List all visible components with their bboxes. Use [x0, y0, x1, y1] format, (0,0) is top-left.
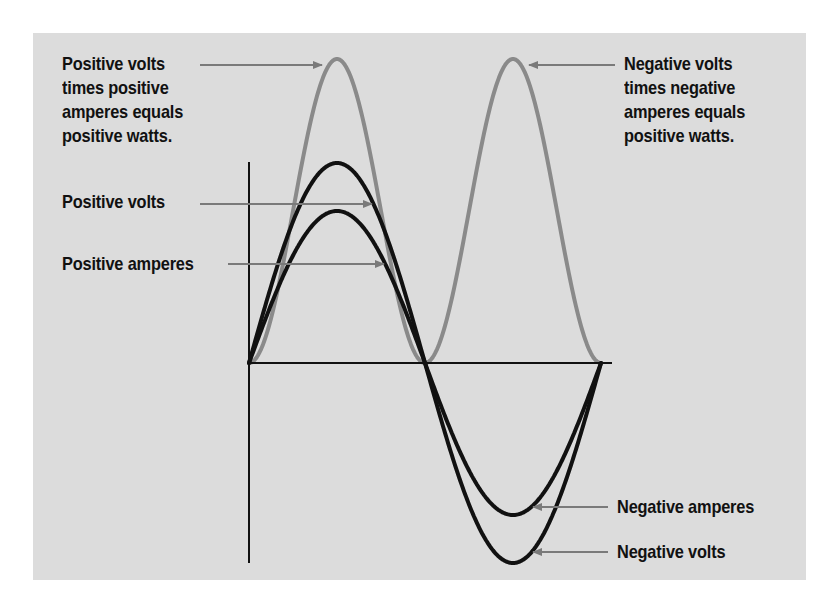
label-positive-volts: Positive volts — [62, 190, 165, 214]
label-line: times positive — [62, 76, 183, 100]
label-line: Negative amperes — [617, 495, 754, 519]
label-line: Negative volts — [617, 540, 725, 564]
label-negative-volts: Negative volts — [617, 540, 725, 564]
waveform-curves — [249, 59, 601, 563]
label-positive-watts: Positive volts times positive amperes eq… — [62, 52, 183, 148]
label-line: Negative volts — [624, 52, 745, 76]
label-line: positive watts. — [624, 124, 745, 148]
label-line: amperes equals — [624, 100, 745, 124]
curve-watts — [249, 59, 601, 363]
label-negative-watts: Negative volts times negative amperes eq… — [624, 52, 745, 148]
label-line: times negative — [624, 76, 745, 100]
label-positive-amperes: Positive amperes — [62, 252, 194, 276]
label-line: Positive volts — [62, 190, 165, 214]
label-line: positive watts. — [62, 124, 183, 148]
label-negative-amperes: Negative amperes — [617, 495, 754, 519]
label-line: Positive amperes — [62, 252, 194, 276]
label-line: Positive volts — [62, 52, 183, 76]
label-line: amperes equals — [62, 100, 183, 124]
